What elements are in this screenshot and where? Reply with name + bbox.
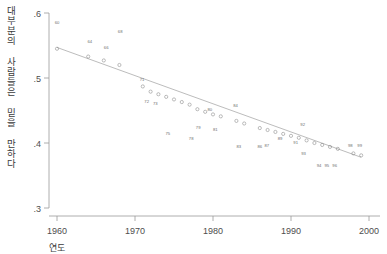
- data-point: [204, 110, 207, 113]
- point-label: 60: [55, 20, 60, 25]
- point-label: 91: [293, 140, 298, 145]
- point-annotations-layer: 6064666871727375787980818384868789919293…: [55, 20, 363, 168]
- point-label: 86: [257, 144, 262, 149]
- point-label: 89: [278, 136, 283, 141]
- point-label: 81: [213, 127, 218, 132]
- point-label: 78: [189, 136, 194, 141]
- data-point: [360, 154, 363, 157]
- point-label: 75: [165, 131, 170, 136]
- point-label: 83: [236, 144, 241, 149]
- scatter-chart: 대부분의 사람들은 믿을 만하다 .6 .5 .4 .3 1960 1970 1…: [0, 0, 387, 254]
- data-point: [258, 126, 261, 129]
- x-axis-title: 연도: [49, 243, 65, 253]
- data-point: [282, 132, 285, 135]
- point-label: 92: [300, 122, 305, 127]
- trend-line-layer: [57, 47, 361, 157]
- data-point: [196, 108, 199, 111]
- data-point: [141, 85, 144, 88]
- data-point: [321, 143, 324, 146]
- data-point: [118, 63, 121, 66]
- point-label: 84: [233, 103, 238, 108]
- data-point: [172, 98, 175, 101]
- point-label: 93: [301, 151, 306, 156]
- chart-canvas: .6 .5 .4 .3 1960 1970 1980 1990 2000 연도 …: [0, 0, 387, 254]
- data-point: [266, 128, 269, 131]
- data-point: [157, 93, 160, 96]
- data-point: [305, 139, 308, 142]
- y-axis-title: 대부분의 사람들은 믿을 만하다: [5, 6, 15, 169]
- x-tick-label-1: 1970: [125, 226, 145, 236]
- point-label: 66: [104, 45, 109, 50]
- point-label: 96: [332, 163, 337, 168]
- point-label: 72: [144, 99, 149, 104]
- point-label: 73: [153, 101, 158, 106]
- point-label: 71: [140, 77, 145, 82]
- y-tick-label-1: .5: [33, 74, 41, 84]
- point-label: 79: [196, 125, 201, 130]
- y-axis-title-wrapper: 대부분의 사람들은 믿을 만하다: [2, 6, 18, 206]
- data-point: [211, 113, 214, 116]
- data-point: [165, 95, 168, 98]
- point-label: 80: [208, 107, 213, 112]
- point-label: 94: [317, 163, 322, 168]
- point-label: 87: [264, 143, 269, 148]
- data-point: [243, 122, 246, 125]
- data-point: [180, 100, 183, 103]
- data-point: [87, 55, 90, 58]
- y-tick-label-2: .4: [33, 139, 41, 149]
- x-tick-label-3: 1990: [281, 226, 301, 236]
- data-point: [188, 103, 191, 106]
- point-label: 99: [357, 143, 362, 148]
- data-point: [219, 115, 222, 118]
- point-label: 95: [325, 163, 330, 168]
- y-tick-label-3: .3: [33, 204, 41, 214]
- data-point: [313, 141, 316, 144]
- x-tick-label-0: 1960: [47, 226, 67, 236]
- data-point: [274, 130, 277, 133]
- y-tick-label-0: .6: [33, 9, 41, 19]
- x-tick-label-4: 2000: [359, 226, 379, 236]
- point-label: 64: [87, 39, 92, 44]
- x-axis: 1960 1970 1980 1990 2000 연도: [47, 216, 380, 253]
- x-tick-label-2: 1980: [203, 226, 223, 236]
- trend-line: [57, 47, 361, 157]
- data-point: [102, 59, 105, 62]
- data-point: [235, 119, 238, 122]
- point-label: 68: [118, 29, 123, 34]
- point-label: 98: [348, 143, 353, 148]
- data-point: [149, 90, 152, 93]
- y-axis: .6 .5 .4 .3: [33, 9, 49, 214]
- data-point: [289, 134, 292, 137]
